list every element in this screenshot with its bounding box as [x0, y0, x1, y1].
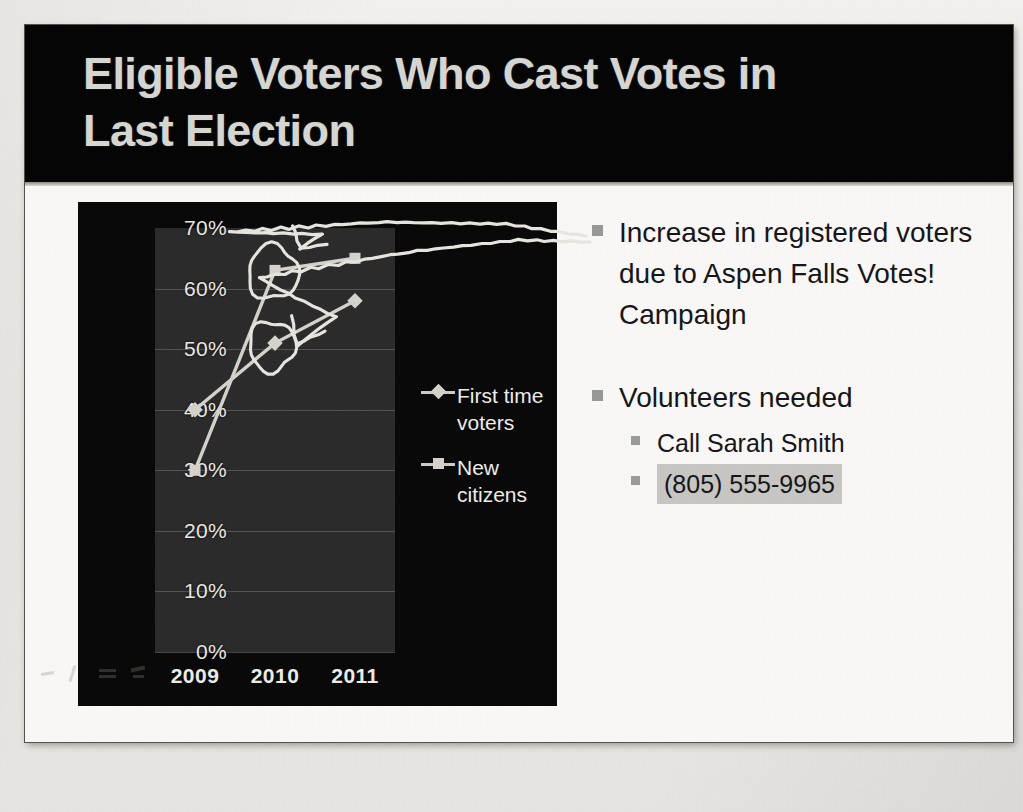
bullet-square-icon — [631, 436, 640, 445]
bullet-text: (805) 555-9965 — [657, 464, 842, 504]
bullet-square-icon — [592, 390, 603, 401]
slide-title-band: Eligible Voters Who Cast Votes in Last E… — [25, 25, 1013, 182]
bullet-list: Increase in registered voters due to Asp… — [573, 212, 993, 506]
slide-body: 0%10%20%30%40%50%60%70% 200920102011 Fir… — [25, 186, 1013, 742]
presentation-slide: Eligible Voters Who Cast Votes in Last E… — [25, 25, 1013, 742]
bullet-text: Volunteers needed — [619, 377, 993, 418]
legend-item-new-citizens: New citizens — [421, 454, 553, 508]
square-marker-icon — [270, 265, 281, 276]
series-line-2 — [195, 258, 355, 470]
chart-container: 0%10%20%30%40%50%60%70% 200920102011 Fir… — [78, 202, 557, 706]
bullet-spacer — [573, 341, 993, 377]
bullet-text: Call Sarah Smith — [657, 424, 845, 462]
series-line-1 — [195, 301, 355, 410]
bullet-square-icon — [631, 476, 640, 485]
bullet-item-level-1: Increase in registered voters due to Asp… — [573, 212, 993, 335]
diamond-marker-icon — [347, 293, 363, 309]
bullet-item-level-1: Volunteers needed — [573, 377, 993, 418]
legend-label: New citizens — [457, 454, 553, 508]
bullet-square-icon — [592, 225, 603, 236]
bullet-item-level-2: Call Sarah Smith — [573, 424, 993, 462]
square-marker-icon — [433, 458, 444, 469]
legend-item-first-time-voters: First time voters — [421, 382, 553, 436]
stray-pencil-marks — [41, 663, 171, 685]
page-title: Eligible Voters Who Cast Votes in Last E… — [83, 45, 963, 159]
legend-label: First time voters — [457, 382, 553, 436]
square-marker-icon — [350, 253, 361, 264]
chart-legend: First time voters New citizens — [421, 382, 553, 526]
diamond-marker-icon — [431, 384, 447, 400]
bullet-item-level-2: (805) 555-9965 — [573, 464, 993, 504]
square-marker-icon — [190, 465, 201, 476]
bullet-text: Increase in registered voters due to Asp… — [619, 212, 993, 335]
